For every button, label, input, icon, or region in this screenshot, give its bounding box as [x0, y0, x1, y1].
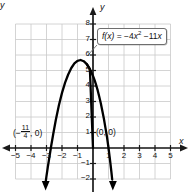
fraction-eleven-fourths: 114 — [21, 124, 30, 139]
y-tick-label: 8 — [79, 18, 90, 27]
y-tick-label: 5 — [79, 65, 90, 74]
x-tick-label: 2 — [117, 151, 132, 160]
x-tick-label: 5 — [163, 151, 178, 160]
origin-point-label: (0, 0) — [96, 127, 116, 137]
y-tick-label: 7 — [79, 34, 90, 43]
function-notation: f(x) — [102, 31, 114, 41]
x-tick-label: 1 — [101, 151, 116, 160]
x-intercept-open-paren: (− — [13, 128, 21, 138]
term2-variable: x — [157, 31, 161, 41]
term1-exponent: 2 — [138, 30, 141, 36]
y-tick-label: 3 — [79, 96, 90, 105]
x-tick-label: 4 — [148, 151, 163, 160]
y-tick-label: −1 — [75, 158, 90, 167]
x-tick-label: −3 — [39, 151, 54, 160]
equation-callout-box: f(x) = −4x2 −11x — [97, 28, 167, 45]
y-tick-label: −2 — [75, 173, 90, 182]
y-tick-label: 2 — [79, 111, 90, 120]
x-intercept-point-label: (−114, 0) — [13, 124, 42, 139]
equals-sign: = — [117, 31, 122, 41]
x-axis-label: x — [179, 136, 184, 146]
x-intercept-close-paren: , 0) — [30, 128, 42, 138]
y-axis-label: y — [0, 0, 5, 10]
x-tick-label: 3 — [132, 151, 147, 160]
y-tick-label: 6 — [79, 49, 90, 58]
curve-arrowhead-left — [42, 181, 50, 191]
y-tick-label: 1 — [79, 127, 90, 136]
x-tick-label: −2 — [55, 151, 70, 160]
y-tick-label: 4 — [79, 80, 90, 89]
x-tick-label: −4 — [24, 151, 39, 160]
fraction-denominator: 4 — [21, 131, 30, 139]
y-axis-label-text: y — [100, 2, 105, 12]
fraction-numerator: 11 — [21, 124, 30, 131]
curve-arrowhead-right — [109, 181, 117, 191]
graph-figure: −5 −4 −3 −2 −1 1 2 3 4 5 8 7 6 5 4 3 2 1… — [0, 0, 191, 194]
x-tick-label: −5 — [8, 151, 23, 160]
